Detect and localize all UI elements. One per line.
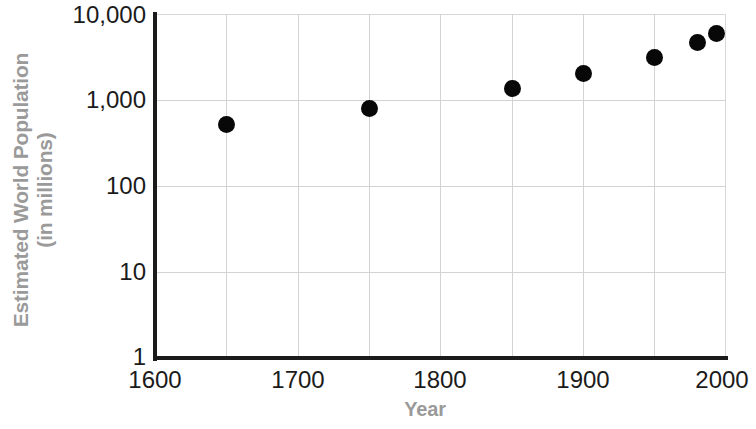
x-axis-tick-labels: 1600 1700 1800 1900 2000: [0, 0, 756, 429]
x-tick-label-2000: 2000: [695, 366, 748, 394]
x-tick-label-1800: 1800: [413, 366, 466, 394]
chart-container: Estimated World Population (in millions)…: [0, 0, 756, 429]
x-tick-label-1600: 1600: [128, 366, 181, 394]
x-axis-title: Year: [330, 398, 520, 421]
x-tick-label-1900: 1900: [556, 366, 609, 394]
x-tick-label-1700: 1700: [271, 366, 324, 394]
